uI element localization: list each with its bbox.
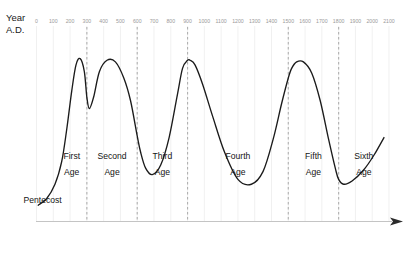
- vitality-curve: [38, 58, 384, 205]
- x-tick-label-1200: 1200: [232, 18, 244, 24]
- x-tick-label-1900: 1900: [350, 18, 362, 24]
- annotation-first-age-line2: Age: [64, 167, 80, 177]
- annotation-group: PentecostFirstAgeSecondAgeThirdAgeFourth…: [24, 151, 374, 205]
- x-tick-label-200: 200: [66, 18, 75, 24]
- annotation-sixth-age-line1: Sixth: [354, 151, 373, 161]
- annotation-fourth-age-line2: Age: [230, 167, 246, 177]
- x-tick-label-1400: 1400: [266, 18, 278, 24]
- x-tick-label-1500: 1500: [283, 18, 295, 24]
- chart-container: 0100200300400500600700800900100011001200…: [0, 0, 414, 253]
- annotation-fourth-age-line1: Fourth: [226, 151, 251, 161]
- x-tick-label-1600: 1600: [299, 18, 311, 24]
- annotation-second-age-line2: Age: [104, 167, 120, 177]
- x-tick-label-400: 400: [99, 18, 108, 24]
- x-tick-label-500: 500: [116, 18, 125, 24]
- x-tick-label-700: 700: [150, 18, 159, 24]
- x-tick-label-2000: 2000: [366, 18, 378, 24]
- x-tick-label-2100: 2100: [383, 18, 395, 24]
- x-tick-label-900: 900: [183, 18, 192, 24]
- annotation-second-age-line1: Second: [97, 151, 126, 161]
- gridline-group: [37, 26, 390, 221]
- annotation-fifth-age-line2: Age: [306, 167, 322, 177]
- annotation-fifth-age-line1: Fifth: [305, 151, 322, 161]
- x-tick-label-800: 800: [166, 18, 175, 24]
- annotation-third-age-line1: Third: [153, 151, 173, 161]
- annotation-pentecost: Pentecost: [24, 195, 63, 205]
- x-tick-label-1700: 1700: [316, 18, 328, 24]
- annotation-first-age-line1: First: [63, 151, 80, 161]
- church-ages-line-chart: 0100200300400500600700800900100011001200…: [0, 0, 414, 253]
- x-tick-label-group: 0100200300400500600700800900100011001200…: [35, 18, 395, 24]
- x-tick-label-1100: 1100: [216, 18, 227, 24]
- x-tick-label-300: 300: [83, 18, 92, 24]
- x-tick-label-600: 600: [133, 18, 142, 24]
- annotation-third-age-line2: Age: [155, 167, 171, 177]
- x-tick-label-0: 0: [35, 18, 38, 24]
- axis-caption-ad: A.D.: [6, 24, 24, 35]
- axis-caption-year: Year: [6, 12, 25, 23]
- annotation-sixth-age-line2: Age: [356, 167, 372, 177]
- age-divider-group: [87, 27, 339, 221]
- x-tick-label-1300: 1300: [249, 18, 261, 24]
- x-tick-label-100: 100: [49, 18, 58, 24]
- x-tick-label-1000: 1000: [199, 18, 211, 24]
- x-tick-label-1800: 1800: [333, 18, 345, 24]
